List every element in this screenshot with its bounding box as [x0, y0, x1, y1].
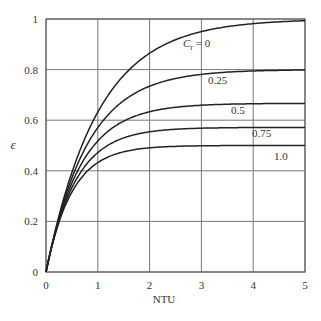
y-tick-label: 0 — [33, 266, 39, 278]
x-tick-label: 0 — [43, 279, 49, 291]
x-tick-label: 5 — [302, 279, 308, 291]
y-axis-label: ε — [10, 137, 16, 152]
y-tick-label: 0.8 — [24, 64, 38, 76]
x-tick-label: 4 — [250, 279, 256, 291]
y-tick-label: 0.6 — [24, 114, 38, 126]
curve-label: 0.75 — [252, 127, 272, 139]
x-axis-label: NTU — [153, 293, 176, 305]
x-tick-label: 2 — [147, 279, 153, 291]
curve-label: 0.5 — [231, 104, 245, 116]
effectiveness-ntu-chart: 01234500.20.40.60.81 NTU ε Cr = 00.250.5… — [0, 0, 321, 321]
curve-labels: Cr = 00.250.50.751.0 — [183, 37, 288, 162]
y-tick-label: 0.2 — [24, 215, 38, 227]
y-tick-label: 0.4 — [24, 165, 38, 177]
y-tick-label: 1 — [33, 13, 39, 25]
curve-label: 1.0 — [274, 150, 288, 162]
x-tick-label: 1 — [95, 279, 101, 291]
curve-1.0 — [46, 146, 305, 273]
x-tick-label: 3 — [199, 279, 205, 291]
tick-labels: 01234500.20.40.60.81 — [24, 13, 308, 291]
curve-label: 0.25 — [208, 74, 228, 86]
curves — [46, 21, 305, 272]
curve-label: Cr = 0 — [183, 37, 211, 52]
